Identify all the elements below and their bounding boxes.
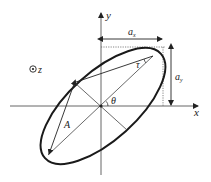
ay-label: ay bbox=[175, 71, 183, 83]
tau-chord bbox=[76, 56, 153, 82]
polarization-ellipse-diagram: y x z ax ay τ θ A bbox=[0, 0, 211, 182]
tau-label: τ bbox=[136, 59, 140, 70]
x-axis-label: x bbox=[193, 106, 199, 118]
y-axis-label: y bbox=[105, 9, 111, 21]
z-axis-label: z bbox=[37, 64, 42, 75]
polarization-ellipse bbox=[22, 29, 183, 182]
tau-arc bbox=[144, 59, 146, 63]
ax-label: ax bbox=[128, 26, 136, 38]
z-out-of-page-icon bbox=[30, 66, 36, 72]
origin-dot bbox=[99, 104, 102, 107]
diagram-svg: y x z ax ay τ θ A bbox=[0, 0, 211, 182]
theta-label: θ bbox=[111, 95, 116, 106]
A-label: A bbox=[63, 119, 71, 130]
A-arrow bbox=[49, 84, 74, 154]
theta-arc bbox=[106, 101, 108, 106]
